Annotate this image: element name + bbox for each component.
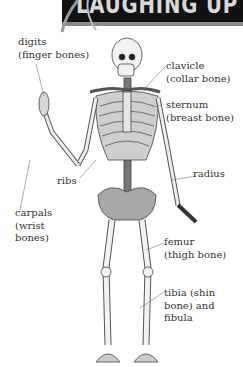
label-femur-line2: (thigh bone) (164, 249, 226, 262)
label-sternum: sternum (breast bone) (166, 99, 234, 124)
label-radius-line1: radius (193, 168, 225, 181)
label-carpals-line1: carpals (15, 207, 52, 220)
leader-clavicle (143, 66, 166, 90)
label-radius: radius (193, 168, 225, 181)
label-tibia-line1: tibia (shin (164, 287, 215, 300)
label-femur-line1: femur (164, 236, 226, 249)
label-sternum-line2: (breast bone) (166, 112, 234, 125)
label-digits-line2: (finger bones) (18, 49, 89, 62)
leader-tibia (140, 292, 164, 308)
label-digits: digits (finger bones) (18, 36, 89, 61)
label-tibia: tibia (shin bone) and fibula (164, 287, 215, 325)
label-femur: femur (thigh bone) (164, 236, 226, 261)
leader-carpals (20, 160, 30, 210)
label-clavicle-line2: (collar bone) (166, 73, 231, 86)
label-carpals-line2: (wrist (15, 220, 52, 233)
label-tibia-line3: fibula (164, 312, 215, 325)
leader-digits (36, 64, 44, 96)
label-ribs-line1: ribs (57, 175, 77, 188)
leader-ribs (80, 160, 96, 178)
label-clavicle-line1: clavicle (166, 60, 231, 73)
label-carpals: carpals (wrist bones) (15, 207, 52, 245)
label-tibia-line2: bone) and (164, 300, 215, 313)
label-clavicle: clavicle (collar bone) (166, 60, 231, 85)
label-ribs: ribs (57, 175, 77, 188)
label-carpals-line3: bones) (15, 232, 52, 245)
label-sternum-line1: sternum (166, 99, 234, 112)
label-digits-line1: digits (18, 36, 89, 49)
